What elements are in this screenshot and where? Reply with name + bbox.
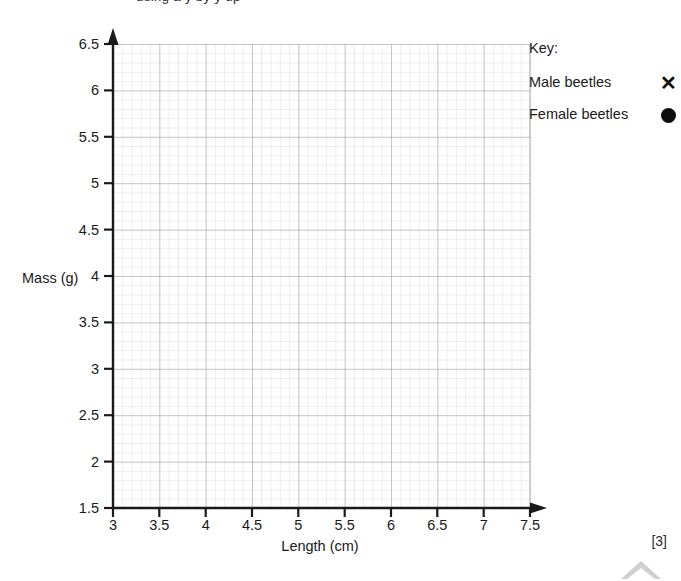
y-tick-label: 4.5 bbox=[79, 222, 99, 238]
y-tick-label: 3.5 bbox=[79, 314, 99, 330]
legend-item-female-beetles: Female beetles bbox=[529, 102, 679, 128]
plot-grid bbox=[113, 44, 530, 508]
y-tick-label: 2 bbox=[91, 454, 99, 470]
x-tick-label: 4 bbox=[202, 517, 210, 533]
x-tick-label: 6 bbox=[387, 517, 395, 533]
x-tick-label: 4.5 bbox=[242, 517, 262, 533]
chevron-up-icon[interactable] bbox=[619, 559, 663, 581]
y-tick-label: 4 bbox=[91, 268, 99, 284]
y-tick-label: 1.5 bbox=[79, 500, 99, 516]
legend-item-label: Female beetles bbox=[529, 107, 628, 122]
y-tick-label: 6.5 bbox=[79, 36, 99, 52]
y-tick-label: 2.5 bbox=[79, 407, 99, 423]
filled-circle-icon bbox=[657, 106, 679, 122]
cross-icon-glyph: ✕ bbox=[660, 72, 677, 94]
x-tick-labels: 3 3.5 4 4.5 5 5.5 6 6.5 7 7.5 bbox=[109, 517, 540, 533]
y-tick-label: 6 bbox=[91, 82, 99, 98]
x-tick-label: 3.5 bbox=[149, 517, 169, 533]
x-tick-label: 5.5 bbox=[335, 517, 355, 533]
y-axis-title: Mass (g) bbox=[22, 270, 78, 286]
x-tick-label: 6.5 bbox=[427, 517, 447, 533]
x-tick-label: 7.5 bbox=[520, 517, 540, 533]
x-axis-title: Length (cm) bbox=[0, 538, 640, 554]
legend-title: Key: bbox=[529, 41, 679, 56]
y-tick-label: 5.5 bbox=[79, 129, 99, 145]
x-tick-label: 5 bbox=[294, 517, 302, 533]
marks-allocation: [3] bbox=[651, 533, 667, 549]
legend-item-male-beetles: Male beetles ✕ bbox=[529, 70, 679, 96]
chart-legend: Key: Male beetles ✕ Female beetles bbox=[529, 41, 679, 134]
filled-circle-icon-glyph bbox=[661, 108, 676, 123]
x-tick-label: 3 bbox=[109, 517, 117, 533]
y-tick-labels: 1.5 2 2.5 3 3.5 4 4.5 5 5.5 6 6.5 bbox=[79, 36, 99, 516]
x-tick-label: 7 bbox=[480, 517, 488, 533]
y-tick-label: 5 bbox=[91, 175, 99, 191]
y-tick-label: 3 bbox=[91, 361, 99, 377]
cross-icon: ✕ bbox=[657, 73, 679, 93]
legend-item-label: Male beetles bbox=[529, 75, 611, 90]
